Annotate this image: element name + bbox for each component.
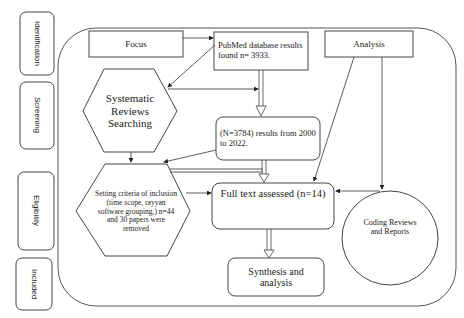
systematic-label: Systematic Reviews Searching <box>100 88 160 134</box>
criteria-label: Setting criteria of inclusion (time scop… <box>94 176 178 248</box>
synthesis-label: Synthesis and analysis <box>238 260 314 294</box>
coding-label: Coding Reviews and Reports <box>358 212 422 242</box>
fulltext-label: Full text assessed (n=14) <box>212 186 334 202</box>
focus-label: Focus <box>89 31 183 57</box>
analysis-label: Analysis <box>325 31 413 57</box>
stage-eligibility: Eligibility <box>18 172 54 250</box>
range-label: (N=3784) results from 2000 to 2022. <box>220 119 316 159</box>
stage-identification: Identification <box>20 12 54 75</box>
pubmed-label: PubMed database results found n= 3933. <box>218 33 306 69</box>
stage-screening: Screening <box>20 82 54 149</box>
stage-included: Included <box>16 258 52 310</box>
